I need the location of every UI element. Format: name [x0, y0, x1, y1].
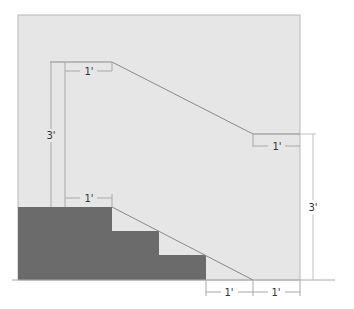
bottom-extension-label: 1' [84, 193, 93, 204]
bottom-run-1-label: 1' [224, 287, 233, 298]
right-landing-label: 1' [272, 141, 281, 152]
stair-handrail-diagram: 1' 3' 1' 1' 3' 1' 1' [0, 0, 354, 309]
right-height-label: 3' [308, 202, 317, 213]
left-height-label: 3' [46, 130, 55, 141]
top-extension-label: 1' [84, 66, 93, 77]
bottom-run-2-label: 1' [271, 287, 280, 298]
